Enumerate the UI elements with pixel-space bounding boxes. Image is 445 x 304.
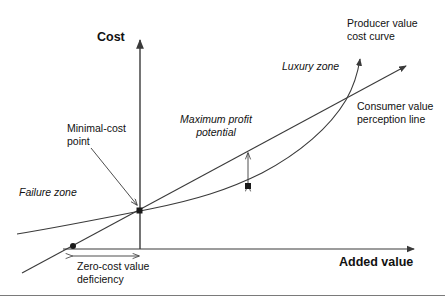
zero-cost-value-deficiency-label: Zero-cost value deficiency [77, 260, 149, 285]
luxury-zone-label: Luxury zone [282, 60, 339, 73]
failure-zone-label: Failure zone [19, 186, 77, 199]
minimal-cost-leader-arrow [91, 148, 137, 205]
bottom-divider [0, 295, 445, 296]
zero-cost-point-marker [70, 243, 76, 249]
consumer-value-perception-line-label: Consumer value perception line [357, 100, 433, 125]
profit-gap-point-marker [245, 183, 251, 189]
y-axis-label: Cost [97, 31, 125, 44]
minimal-cost-point-label: Minimal-cost point [67, 122, 126, 147]
minimal-cost-point-marker [137, 208, 143, 214]
producer-value-cost-curve-label: Producer value cost curve [347, 17, 418, 42]
diagram-canvas: Cost Added value Producer value cost cur… [0, 0, 445, 304]
x-axis-label: Added value [339, 256, 413, 269]
consumer-value-perception-line [22, 66, 406, 273]
maximum-profit-potential-label: Maximum profit potential [176, 113, 256, 138]
